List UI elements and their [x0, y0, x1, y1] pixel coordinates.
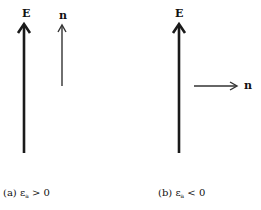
caption-a-condition: > 0 [29, 187, 50, 198]
caption-b-text: (b) ε [158, 187, 181, 198]
panel-b-field-arrow [173, 24, 185, 153]
panel-a-field-arrow [18, 24, 30, 153]
caption-b-condition: < 0 [184, 187, 205, 198]
panel-a-normal-arrow [58, 25, 66, 86]
panel-b-caption: (b) εa < 0 [158, 188, 205, 199]
panel-a-field-label: E [22, 8, 30, 19]
panel-b-normal-arrow [194, 82, 237, 90]
caption-a-text: (a) ε [3, 187, 25, 198]
panel-a-caption: (a) εa > 0 [3, 188, 50, 199]
panel-b-field-label: E [175, 8, 183, 19]
diagram-canvas [0, 0, 261, 210]
panel-b-normal-label: n [244, 80, 252, 91]
panel-a-normal-label: n [59, 10, 67, 21]
